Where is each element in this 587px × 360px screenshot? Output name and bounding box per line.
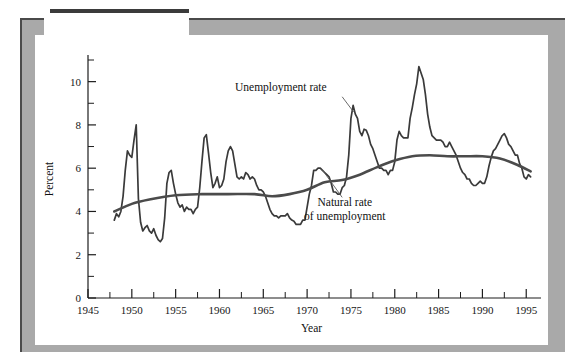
y-tick-label: 6 <box>76 162 82 174</box>
x-tick-labels: 1945195019551960196519701975198019851990… <box>77 304 538 316</box>
annotation-line-2: of unemployment <box>304 210 386 223</box>
annotation-label-natural-rate-of-unemployment: Natural rateof unemployment <box>304 196 386 223</box>
x-tick-label: 1955 <box>165 304 188 316</box>
x-tick-label: 1950 <box>121 304 144 316</box>
y-tick-label: 10 <box>70 76 82 88</box>
unemployment-chart: 0246810 19451950195519601965197019751980… <box>35 35 548 345</box>
y-tick-label: 8 <box>76 119 82 131</box>
y-tick-label: 4 <box>76 205 82 217</box>
x-tick-label: 1960 <box>208 304 231 316</box>
x-tick-label: 1970 <box>296 304 319 316</box>
x-tick-label: 1945 <box>77 304 100 316</box>
annotation-leader-unemployment-rate <box>342 97 353 112</box>
x-tick-label: 1990 <box>471 304 494 316</box>
figure-page: Figure 5-1 0246810 194519501955196019651… <box>0 0 587 360</box>
annotation-line-1: Natural rate <box>318 196 373 208</box>
y-axis-title: Percent <box>43 161 55 196</box>
y-tick-labels: 0246810 <box>70 76 82 304</box>
x-tick-label: 1980 <box>384 304 407 316</box>
annotation-label-unemployment-rate: Unemployment rate <box>235 81 327 94</box>
figure-tab-rule <box>50 9 189 13</box>
chart-annotations: Unemployment rateNatural rateof unemploy… <box>235 81 386 223</box>
y-tick-label: 0 <box>76 292 82 304</box>
x-tick-label: 1985 <box>428 304 451 316</box>
y-tick-label: 2 <box>76 249 82 261</box>
x-tick-label: 1995 <box>515 304 538 316</box>
x-axis-title: Year <box>301 322 322 334</box>
x-tick-label: 1975 <box>340 304 363 316</box>
figure-tab <box>44 13 189 43</box>
x-tick-label: 1965 <box>252 304 275 316</box>
